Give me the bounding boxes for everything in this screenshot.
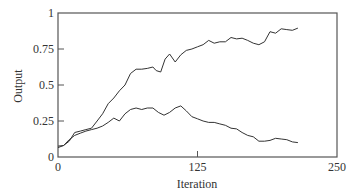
- series-line-lower: [58, 106, 298, 148]
- x-tick-label: 125: [189, 160, 207, 174]
- y-tick-label: 0.5: [39, 78, 54, 92]
- x-tick-label: 0: [55, 160, 61, 174]
- y-tick-label: 0: [48, 150, 54, 164]
- plot-frame: [58, 13, 337, 157]
- y-axis-label: Output: [11, 69, 25, 103]
- y-tick-label: 1: [48, 6, 54, 20]
- y-tick-label: 0.25: [33, 114, 54, 128]
- series-layer: [58, 28, 298, 148]
- line-chart: 0125250 00.250.50.751 Iteration Output: [0, 0, 361, 192]
- y-axis-ticks: 00.250.50.751: [33, 6, 64, 164]
- x-axis-ticks: 0125250: [55, 151, 346, 174]
- series-line-upper: [58, 28, 298, 146]
- x-axis-label: Iteration: [177, 177, 218, 191]
- x-tick-label: 250: [328, 160, 346, 174]
- plot-area: [58, 13, 337, 157]
- y-tick-label: 0.75: [33, 42, 54, 56]
